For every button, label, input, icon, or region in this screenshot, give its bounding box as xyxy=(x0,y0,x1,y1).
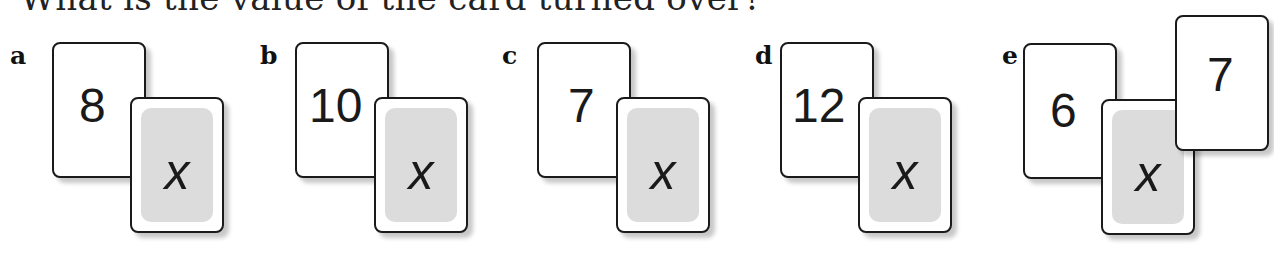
turned-over-card: x xyxy=(616,97,710,233)
problem-label: e xyxy=(1002,41,1018,70)
unknown-x: x xyxy=(376,143,466,201)
card-value: 7 xyxy=(1207,47,1234,102)
problem-label: d xyxy=(755,41,772,70)
question-title: What is the value of the card turned ove… xyxy=(20,0,762,18)
turned-over-card: x xyxy=(374,97,468,233)
turned-over-card: x xyxy=(858,97,952,233)
unknown-x: x xyxy=(1103,145,1193,203)
card-value: 7 xyxy=(568,78,595,133)
card-value: 8 xyxy=(79,78,106,133)
problem-label: b xyxy=(260,41,277,70)
turned-over-card: x xyxy=(130,97,224,233)
unknown-x: x xyxy=(618,143,708,201)
card-value: 6 xyxy=(1050,83,1077,138)
problem-label: c xyxy=(502,41,517,70)
number-card: 7 xyxy=(1175,15,1269,151)
unknown-x: x xyxy=(860,143,950,201)
card-value: 12 xyxy=(792,78,845,133)
unknown-x: x xyxy=(132,143,222,201)
problem-label: a xyxy=(10,41,26,70)
card-value: 10 xyxy=(309,78,362,133)
